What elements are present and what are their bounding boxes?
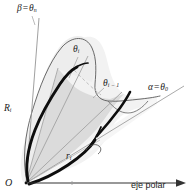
label-inner-radius: ri (66, 152, 71, 162)
label-polar-axis: eje polar (131, 181, 166, 190)
label-beta-ray: β=θn (17, 4, 37, 14)
label-origin: O (5, 178, 12, 188)
label-beta-subscript: n (34, 7, 37, 13)
label-alpha-ray: α=θ0 (148, 83, 168, 93)
origin-point (25, 182, 28, 185)
label-theta-i-minus-1: θi − 1 (103, 79, 119, 89)
polar-area-figure: β=θn θi θi − 1 α=θ0 Ri ri O eje polar (0, 0, 195, 196)
leader-beta (32, 16, 35, 25)
label-theta-i-subscript: i (78, 48, 80, 54)
label-theta-i-minus-1-subscript: i − 1 (108, 82, 119, 88)
label-outer-radius-subscript: i (10, 107, 12, 113)
label-theta-i: θi (73, 45, 79, 55)
label-alpha-subscript: 0 (165, 86, 168, 92)
polar-diagram-canvas (0, 0, 195, 196)
label-beta-equals: = (22, 3, 29, 13)
label-inner-radius-subscript: i (70, 155, 72, 161)
polar-axis-arrowhead (176, 179, 186, 187)
label-outer-radius: Ri (4, 104, 11, 114)
